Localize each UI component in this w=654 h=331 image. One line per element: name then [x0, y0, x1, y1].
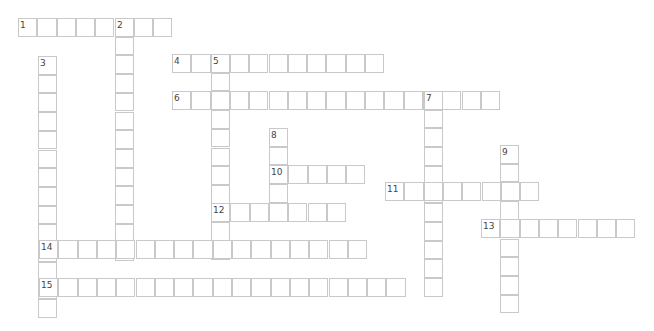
crossword-cell[interactable]: 12 — [211, 203, 230, 222]
crossword-cell[interactable] — [136, 240, 155, 259]
crossword-cell[interactable] — [288, 203, 307, 222]
crossword-cell[interactable]: 7 — [424, 91, 443, 110]
crossword-cell[interactable]: 4 — [172, 54, 191, 73]
crossword-cell[interactable] — [326, 91, 345, 110]
crossword-cell[interactable] — [76, 18, 95, 37]
crossword-cell[interactable] — [616, 219, 635, 238]
crossword-cell[interactable] — [37, 18, 56, 37]
crossword-cell[interactable] — [288, 91, 307, 110]
crossword-cell[interactable] — [597, 219, 616, 238]
crossword-cell[interactable] — [38, 75, 57, 94]
crossword-cell[interactable] — [211, 222, 230, 241]
crossword-cell[interactable] — [500, 164, 519, 183]
crossword-cell[interactable] — [443, 182, 462, 201]
crossword-cell[interactable] — [329, 240, 348, 259]
crossword-cell[interactable]: 5 — [211, 54, 230, 73]
crossword-cell[interactable] — [462, 91, 481, 110]
crossword-cell[interactable] — [327, 165, 346, 184]
crossword-cell[interactable] — [365, 54, 384, 73]
crossword-cell[interactable] — [309, 240, 328, 259]
crossword-cell[interactable] — [115, 130, 134, 149]
crossword-cell[interactable] — [213, 278, 232, 297]
crossword-cell[interactable] — [308, 165, 327, 184]
crossword-cell[interactable]: 8 — [269, 128, 288, 147]
crossword-cell[interactable] — [424, 259, 443, 278]
crossword-cell[interactable] — [174, 278, 193, 297]
crossword-cell[interactable] — [211, 166, 230, 185]
crossword-cell[interactable] — [78, 278, 97, 297]
crossword-cell[interactable] — [230, 203, 249, 222]
crossword-cell[interactable] — [271, 278, 290, 297]
crossword-cell[interactable]: 10 — [269, 165, 288, 184]
crossword-cell[interactable] — [249, 54, 268, 73]
crossword-cell[interactable] — [115, 93, 134, 112]
crossword-cell[interactable] — [38, 299, 57, 318]
crossword-cell[interactable] — [38, 93, 57, 112]
crossword-cell[interactable] — [329, 278, 348, 297]
crossword-cell[interactable] — [211, 129, 230, 148]
crossword-cell[interactable] — [558, 219, 577, 238]
crossword-cell[interactable] — [57, 18, 76, 37]
crossword-cell[interactable] — [155, 240, 174, 259]
crossword-cell[interactable] — [578, 219, 597, 238]
crossword-cell[interactable] — [462, 182, 481, 201]
crossword-cell[interactable] — [211, 91, 230, 110]
crossword-cell[interactable] — [193, 278, 212, 297]
crossword-cell[interactable] — [501, 182, 520, 201]
crossword-cell[interactable]: 1 — [18, 18, 37, 37]
crossword-cell[interactable] — [38, 168, 57, 187]
crossword-cell[interactable]: 15 — [39, 278, 58, 297]
crossword-cell[interactable] — [290, 278, 309, 297]
crossword-cell[interactable] — [269, 184, 288, 203]
crossword-cell[interactable] — [520, 219, 539, 238]
crossword-cell[interactable] — [384, 91, 403, 110]
crossword-cell[interactable] — [308, 203, 327, 222]
crossword-cell[interactable] — [174, 240, 193, 259]
crossword-cell[interactable] — [269, 91, 288, 110]
crossword-cell[interactable] — [500, 219, 519, 238]
crossword-cell[interactable] — [136, 278, 155, 297]
crossword-cell[interactable] — [481, 91, 500, 110]
crossword-cell[interactable] — [442, 91, 461, 110]
crossword-cell[interactable]: 9 — [500, 145, 519, 164]
crossword-cell[interactable] — [230, 54, 249, 73]
crossword-cell[interactable]: 3 — [38, 56, 57, 75]
crossword-cell[interactable] — [115, 168, 134, 187]
crossword-cell[interactable] — [269, 203, 288, 222]
crossword-cell[interactable] — [424, 203, 443, 222]
crossword-cell[interactable] — [424, 278, 443, 297]
crossword-cell[interactable]: 14 — [39, 240, 58, 259]
crossword-cell[interactable] — [251, 240, 270, 259]
crossword-cell[interactable] — [251, 278, 270, 297]
crossword-cell[interactable] — [191, 54, 210, 73]
crossword-cell[interactable] — [348, 240, 367, 259]
crossword-cell[interactable] — [211, 185, 230, 204]
crossword-cell[interactable] — [211, 73, 230, 92]
crossword-cell[interactable] — [213, 240, 232, 259]
crossword-cell[interactable]: 13 — [481, 219, 500, 238]
crossword-cell[interactable] — [38, 206, 57, 225]
crossword-cell[interactable] — [58, 240, 77, 259]
crossword-cell[interactable] — [232, 240, 251, 259]
crossword-cell[interactable] — [367, 278, 386, 297]
crossword-cell[interactable] — [348, 278, 367, 297]
crossword-cell[interactable]: 6 — [172, 91, 191, 110]
crossword-cell[interactable] — [211, 110, 230, 129]
crossword-cell[interactable] — [309, 278, 328, 297]
crossword-cell[interactable] — [38, 187, 57, 206]
crossword-cell[interactable] — [58, 278, 77, 297]
crossword-cell[interactable] — [115, 74, 134, 93]
crossword-cell[interactable] — [193, 240, 212, 259]
crossword-cell[interactable] — [38, 112, 57, 131]
crossword-cell[interactable] — [249, 91, 268, 110]
crossword-cell[interactable] — [271, 240, 290, 259]
crossword-cell[interactable] — [404, 182, 423, 201]
crossword-cell[interactable] — [115, 112, 134, 131]
crossword-cell[interactable] — [116, 240, 135, 259]
crossword-cell[interactable] — [269, 54, 288, 73]
crossword-cell[interactable] — [115, 205, 134, 224]
crossword-cell[interactable]: 2 — [115, 18, 134, 37]
crossword-cell[interactable] — [326, 54, 345, 73]
crossword-cell[interactable] — [97, 240, 116, 259]
crossword-cell[interactable] — [115, 55, 134, 74]
